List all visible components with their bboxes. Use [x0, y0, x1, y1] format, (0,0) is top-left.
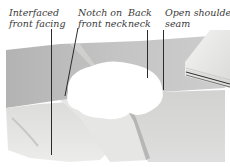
label-line: front facing: [9, 18, 53, 29]
label-line: seam: [165, 18, 230, 29]
label-line: front neck: [78, 18, 128, 29]
label-line: Interfaced: [9, 7, 53, 18]
neckline-opening: [67, 61, 163, 119]
label-open-shoulder-seam: Open shoulder seam: [165, 7, 230, 29]
label-back-neck: Back neck: [128, 7, 152, 29]
label-line: neck: [128, 18, 152, 29]
sewing-figure: Interfaced front facing Notch on front n…: [0, 0, 230, 167]
leader-line-shoulder-seam: [163, 30, 164, 90]
label-line: Open shoulder: [165, 7, 230, 18]
leader-line-front-facing: [51, 29, 52, 155]
leader-line-back-neck: [147, 30, 148, 78]
label-notch-on-front-neck: Notch on front neck: [78, 7, 128, 29]
label-line: Back: [128, 7, 152, 18]
label-interfaced-front-facing: Interfaced front facing: [9, 7, 53, 29]
label-line: Notch on: [78, 7, 128, 18]
